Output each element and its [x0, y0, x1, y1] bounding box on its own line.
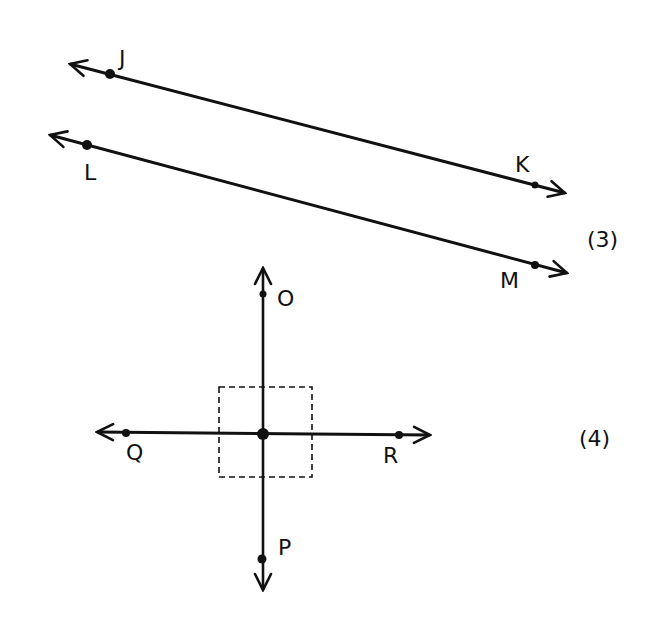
point-r	[395, 431, 403, 439]
figure-number-4: (4)	[579, 426, 610, 451]
label-r: R	[383, 443, 398, 468]
point-q	[122, 429, 130, 437]
line-jk	[70, 64, 565, 193]
label-l: L	[84, 160, 97, 185]
point-o	[260, 291, 267, 298]
intersection-point	[257, 428, 269, 440]
point-j	[105, 69, 115, 79]
label-p: P	[278, 535, 291, 560]
figure-4: O P Q R (4)	[97, 268, 610, 590]
label-j: J	[117, 46, 126, 71]
point-l	[82, 140, 92, 150]
label-o: O	[277, 286, 294, 311]
label-q: Q	[126, 440, 143, 465]
figure-number-3: (3)	[587, 227, 618, 252]
point-m	[531, 261, 539, 269]
label-m: M	[500, 268, 519, 293]
geometry-diagram: J K L M (3) O P Q R (4)	[0, 0, 662, 627]
line-lm	[50, 135, 567, 273]
label-k: K	[515, 152, 530, 177]
point-k	[532, 182, 539, 189]
point-p	[258, 555, 267, 564]
figure-3: J K L M (3)	[50, 46, 618, 293]
